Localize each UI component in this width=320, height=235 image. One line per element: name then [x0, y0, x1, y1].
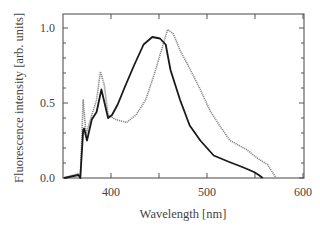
y-tick-label: 0.5 — [40, 96, 55, 110]
x-axis-label: Wavelength [nm] — [140, 207, 227, 221]
y-axis-label: Fluorescence intensity [arb. units] — [12, 13, 26, 183]
dotted-series-line — [64, 30, 276, 179]
x-tick-label: 600 — [294, 185, 312, 199]
x-tick-label: 500 — [198, 185, 216, 199]
y-tick-label: 0.0 — [40, 171, 55, 185]
data-series — [64, 30, 276, 179]
x-tick-label: 400 — [102, 185, 120, 199]
fluorescence-chart: 4005006000.00.51.0 Wavelength [nm] Fluor… — [0, 0, 320, 235]
y-tick-label: 1.0 — [40, 21, 55, 35]
